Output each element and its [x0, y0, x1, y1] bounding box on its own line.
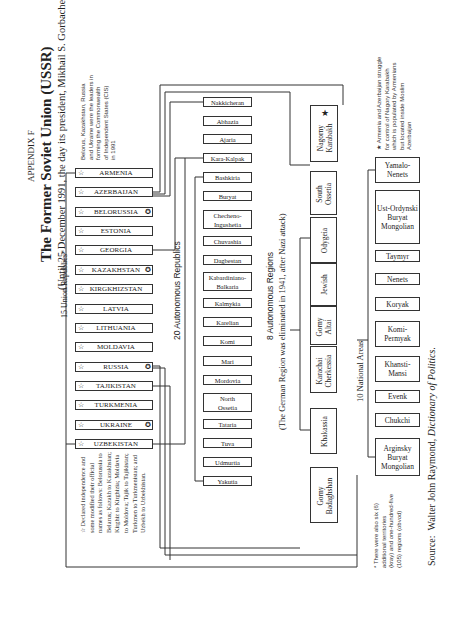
star-icon: ☆	[78, 246, 88, 254]
star-icon: ☆	[78, 324, 88, 332]
cis-note: Belorus, Kazakhstan, Russia and Ukraine …	[80, 75, 118, 160]
autonomous-republic: North Ossetia	[203, 393, 252, 412]
autonomous-regions-sublabel: (The German Region was eliminated in 194…	[277, 213, 287, 430]
autonomous-republics-label: 20 Autonomous Republics	[172, 241, 182, 340]
star-icon: ☆	[78, 401, 88, 409]
union-republic-latvia: ☆LATVIA	[75, 304, 153, 314]
union-republic-uzbekistan: ☆UZBEKISTAN	[75, 439, 153, 449]
autonomous-republic: Tuva	[203, 438, 252, 448]
national-area: Yamalo-Nenets	[375, 157, 420, 183]
star-icon: ☆	[78, 305, 88, 313]
autonomous-republic: Karelian	[203, 317, 252, 327]
autonomous-republic: Dagbestan	[203, 255, 252, 265]
union-republic-estonia: ☆ESTONIA	[75, 226, 153, 236]
union-republic-russia: ☆RUSSIA✪	[75, 362, 153, 372]
star-icon: ☆	[78, 343, 88, 351]
star-icon: ☆	[78, 440, 88, 448]
autonomous-republic: Bashkiria	[203, 172, 252, 183]
union-republic-kazakhstan: ☆KAZAKHSTAN✪	[75, 265, 153, 275]
union-republic-lithuania: ☆LITHUANIA	[75, 323, 153, 333]
autonomous-regions-label: 8 Autonomous Regions	[265, 252, 275, 340]
cis-circle-icon: ✪	[144, 208, 152, 216]
star-icon: ☆	[78, 169, 88, 177]
autonomous-republic: Mordovia	[203, 375, 252, 385]
black-star-icon: ★	[321, 108, 329, 118]
autonomous-republic: Nakkicheran	[203, 97, 252, 107]
national-area: Khansti-Mansi	[375, 356, 420, 382]
cis-circle-icon: ✪	[144, 363, 152, 371]
national-area: Evenk	[375, 390, 420, 403]
region-khakassia: Khakassia	[310, 408, 337, 454]
union-republic-belorussia: ☆BELORUSSIA✪	[75, 207, 153, 217]
page-title: The Former Soviet Union (USSR)	[38, 46, 55, 262]
union-republic-azerbaijan: ☆AZERBAIJAN	[75, 187, 153, 197]
autonomous-republic: Buryat	[203, 191, 252, 201]
autonomous-republic: Checheno- Ingushetia	[203, 210, 252, 229]
union-republic-armenia: ☆ARMENIA	[75, 168, 153, 178]
national-area: Taymyr	[375, 250, 420, 262]
region-karachai-cherkessia: Karachai Cherkessia	[310, 346, 337, 393]
region-south-ossetia: South Ossetia	[310, 171, 337, 215]
star-icon: ☆	[78, 421, 88, 429]
region-nagorny-karabakh: Nagorny Karabakh ★	[310, 105, 338, 162]
union-republic-ukraine: ☆UKRAINE✪	[75, 420, 153, 430]
territories-note: * There were also six (6) additional ter…	[373, 494, 403, 568]
autonomous-republic: Chuvashia	[203, 236, 252, 246]
cis-circle-icon: ✪	[144, 266, 152, 274]
region-jewish: Jewish	[310, 263, 337, 306]
star-icon: ☆	[78, 188, 88, 196]
autonomous-republic: Udmurtia	[203, 457, 252, 467]
region-gorny-badaghshan: Gorny Badaghshan	[310, 467, 338, 523]
star-icon: ☆	[78, 363, 88, 371]
national-area: Komi-Permyak	[375, 321, 420, 347]
independence-note: ☆ Declared independence and some modifie…	[79, 452, 148, 533]
union-republic-georgia: ☆GEORGIA	[75, 245, 153, 255]
national-area: Chukchi	[375, 413, 420, 427]
autonomous-republic: Mari	[203, 356, 252, 366]
source-citation: Source: Walter John Raymond, Dictionary …	[426, 347, 437, 566]
appendix-label: APPENDIX F	[26, 130, 36, 182]
cis-circle-icon: ✪	[144, 421, 152, 429]
autonomous-republic: Yakutia	[203, 476, 252, 486]
star-icon: ☆	[78, 208, 88, 216]
autonomous-republic: Kalmykia	[203, 298, 252, 308]
region-odygeia: Odygeia	[310, 217, 337, 263]
union-republic-tajikistan: ☆TAJIKISTAN	[75, 381, 153, 391]
national-area: Arginsky Buryat Mongolian	[375, 438, 420, 476]
autonomous-republic: Ajaria	[203, 134, 252, 144]
national-area: Nenets	[375, 273, 420, 285]
karabakh-note: ★ Armenia and Azerbaijan struggle for co…	[376, 57, 414, 150]
union-republics-label: 15 Union Republics*	[60, 250, 69, 318]
autonomous-republic: Komi	[203, 336, 252, 346]
national-area: Koryak	[375, 297, 420, 311]
national-area: Ust-Ordynski Buryat Mongolian	[375, 190, 420, 244]
union-republic-turkmenia: ☆TURKMENIA	[75, 400, 153, 410]
union-republic-moldavia: ☆MOLDAVIA	[75, 342, 153, 352]
autonomous-republic: Abhazia	[203, 116, 252, 126]
star-icon: ☆	[78, 266, 88, 274]
star-icon: ☆	[78, 227, 88, 235]
union-republic-kirgkhizstan: ☆KIRGKHIZSTAN	[75, 284, 153, 294]
national-areas-label: 10 National Areas	[355, 341, 365, 402]
region-gorny-altai: Gorny Altai	[310, 306, 337, 345]
autonomous-republic: Kabardiniano- Balkaria	[203, 272, 252, 291]
star-icon: ☆	[78, 285, 88, 293]
page-subtitle: (Until 25 December 1991, the day its pre…	[56, 0, 67, 290]
autonomous-republic: Kara-Kalpak	[203, 153, 252, 163]
autonomous-republic: Tataria	[203, 419, 252, 429]
star-icon: ☆	[78, 382, 88, 390]
